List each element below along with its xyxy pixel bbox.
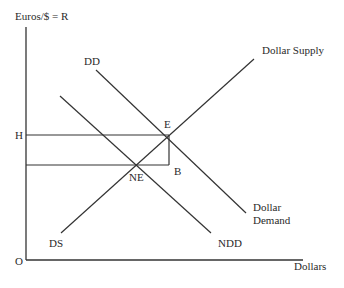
y-axis-label: Euros/$ = R — [15, 10, 69, 22]
dd-label: DD — [84, 55, 100, 67]
dollar-supply-label: Dollar Supply — [262, 44, 325, 56]
x-axis-label: Dollars — [294, 260, 326, 272]
dollar-demand-label-line1: Dollar — [253, 201, 281, 213]
dollar-supply-curve — [61, 59, 254, 233]
ne-point-label: NE — [129, 171, 144, 183]
origin-label: O — [15, 255, 23, 267]
ds-label: DS — [49, 237, 63, 249]
e-point-label: E — [164, 118, 171, 130]
b-point-label: B — [174, 165, 181, 177]
h-label: H — [15, 129, 23, 141]
exchange-rate-diagram: Euros/$ = R Dollars O H DD Dollar Demand… — [0, 0, 344, 288]
dollar-demand-curve — [96, 70, 246, 213]
dollar-demand-label-line2: Demand — [253, 214, 291, 226]
ndd-label: NDD — [218, 237, 242, 249]
